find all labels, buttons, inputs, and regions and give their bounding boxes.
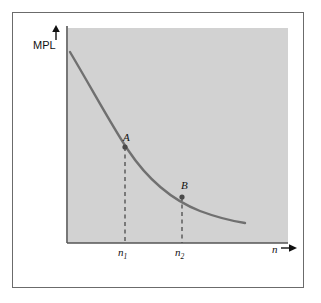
x-tick-label-n1-subscript: 1 xyxy=(124,252,128,261)
point-marker-b xyxy=(179,194,184,199)
point-label-b: B xyxy=(181,180,188,191)
x-tick-label-n1: n1 xyxy=(118,247,127,261)
y-axis-label: MPL xyxy=(33,40,56,51)
figure-root: MPL n n1 n2 A B xyxy=(0,0,321,303)
mpl-curve xyxy=(70,52,245,223)
up-arrow-icon xyxy=(52,25,60,40)
point-marker-a xyxy=(122,144,127,149)
x-axis-label: n xyxy=(272,244,278,255)
x-tick-label-n2: n2 xyxy=(175,247,184,261)
right-arrow-icon xyxy=(281,244,297,252)
x-tick-label-n2-subscript: 2 xyxy=(181,252,185,261)
point-label-a: A xyxy=(123,132,130,143)
